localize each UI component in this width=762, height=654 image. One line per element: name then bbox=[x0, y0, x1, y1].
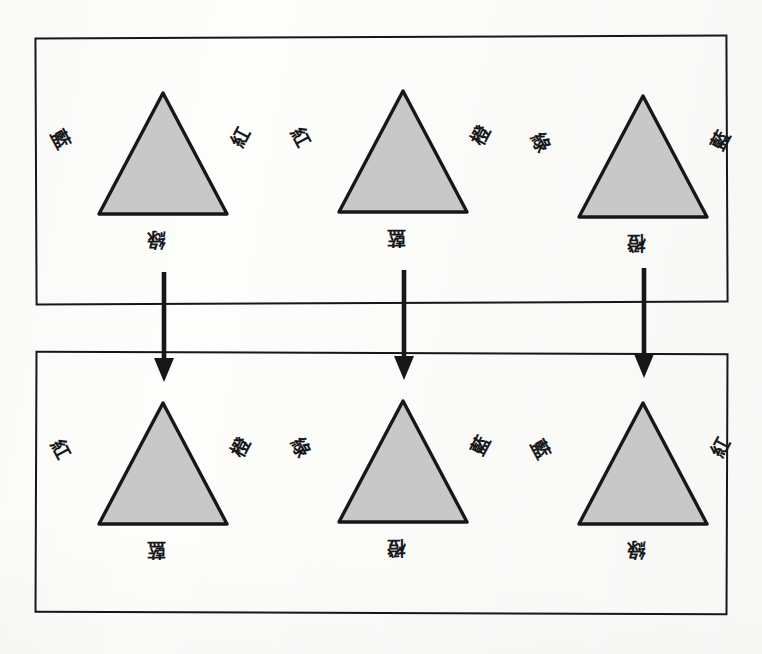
source-triangle-1: 藍 紅 綠 bbox=[43, 80, 283, 280]
triangle-shape bbox=[93, 88, 233, 220]
triangle-left-vertex-label: 綠 bbox=[528, 130, 554, 156]
triangle-bottom-vertex-label: 藍 bbox=[147, 540, 166, 559]
triangle-shape bbox=[333, 396, 473, 528]
target-triangle-2: 綠 藍 橙 bbox=[283, 388, 523, 588]
triangle-bottom-vertex-label: 橙 bbox=[387, 538, 406, 557]
triangle-shape bbox=[333, 86, 473, 218]
source-triangle-3: 綠 藍 橙 bbox=[523, 83, 762, 283]
target-triangle-1: 紅 橙 藍 bbox=[43, 390, 283, 590]
triangle-shape bbox=[573, 398, 713, 530]
triangle-left-vertex-label: 紅 bbox=[288, 125, 314, 151]
triangle-shape bbox=[93, 398, 233, 530]
triangle-bottom-vertex-label: 綠 bbox=[627, 540, 646, 559]
target-triangle-3: 藍 紅 綠 bbox=[523, 390, 762, 590]
source-triangle-2: 紅 橙 藍 bbox=[283, 78, 523, 278]
triangle-left-vertex-label: 綠 bbox=[288, 435, 314, 461]
triangle-left-vertex-label: 藍 bbox=[528, 437, 554, 463]
triangle-shape bbox=[573, 91, 713, 223]
triangle-bottom-vertex-label: 橙 bbox=[627, 233, 646, 252]
triangle-left-vertex-label: 紅 bbox=[48, 437, 74, 463]
triangle-bottom-vertex-label: 藍 bbox=[387, 228, 406, 247]
triangle-left-vertex-label: 藍 bbox=[48, 127, 74, 153]
triangle-bottom-vertex-label: 綠 bbox=[147, 230, 166, 249]
diagram-canvas: 藍 紅 綠 紅 橙 藍 綠 藍 橙 bbox=[0, 0, 762, 654]
